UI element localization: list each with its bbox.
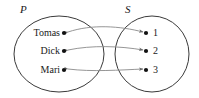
mapping-arrow [68,27,143,32]
element-dot [144,31,148,35]
element-dot [62,49,66,53]
element-label-1: 1 [153,28,158,38]
element-label-3: 3 [153,65,158,75]
element-label-tomas: Tomas [33,28,60,38]
mapping-arrow [68,47,143,50]
element-label-mari: Mari [41,65,60,75]
element-label-dick: Dick [41,46,60,56]
set-label-p: P [20,4,27,15]
mapping-arrow [68,69,143,71]
element-label-2: 2 [153,46,158,56]
set-mapping-figure: P S Tomas Dick Mari 1 2 3 [0,0,199,98]
element-dot-group-s [144,31,148,72]
element-dot [62,31,66,35]
mapping-arrow-group [68,27,143,71]
ellipse-set-s [115,16,189,92]
set-label-s: S [125,4,131,15]
element-dot-group-p [62,31,66,72]
element-dot [62,68,66,72]
element-dot [144,49,148,53]
diagram-canvas [0,0,199,98]
element-dot [144,68,148,72]
